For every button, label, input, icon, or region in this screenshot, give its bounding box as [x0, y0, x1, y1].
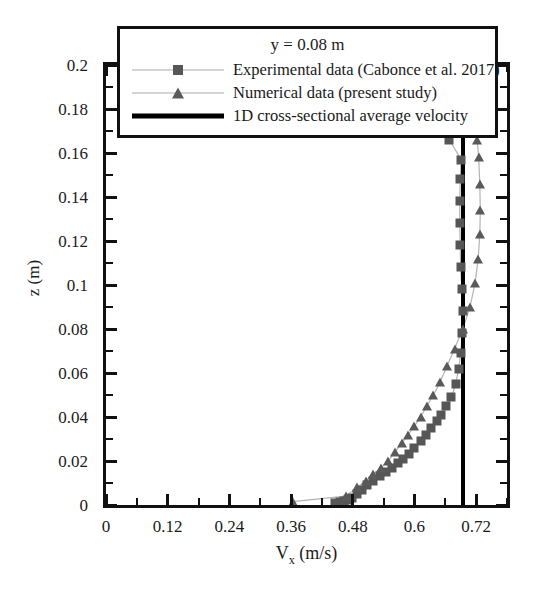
x-axis-tick-label: 0.48 [323, 518, 383, 535]
experimental-data-point [437, 410, 446, 419]
y-axis-major-tick [106, 460, 117, 463]
y-axis-major-tick [496, 372, 507, 375]
legend-label-average-velocity: 1D cross-sectional average velocity [233, 106, 468, 126]
x-axis-title: Vx (m/s) [103, 543, 510, 568]
x-axis-major-tick [475, 494, 478, 505]
y-axis-major-tick [106, 65, 117, 67]
experimental-data-point [456, 241, 465, 250]
y-axis-tick-label: 0.2 [67, 57, 88, 74]
y-axis-minor-tick [500, 350, 507, 352]
x-axis-major-tick [351, 494, 354, 505]
y-axis-minor-tick [500, 218, 507, 220]
x-axis-minor-tick [136, 498, 138, 505]
numerical-data-point [390, 448, 400, 457]
y-axis-tick-label: 0.1 [67, 277, 88, 294]
x-axis-tick-labels: 00.120.240.360.480.60.72 [103, 514, 510, 540]
experimental-data-point [455, 219, 464, 228]
numerical-data-point [470, 278, 480, 287]
y-axis-major-tick [106, 152, 117, 155]
numerical-data-point [475, 230, 485, 239]
numerical-data-point [416, 413, 426, 422]
numerical-data-point [458, 325, 468, 334]
y-axis-tick-label: 0.04 [58, 409, 88, 426]
experimental-data-point [451, 380, 460, 389]
numerical-data-point [409, 421, 419, 430]
y-axis-major-tick [496, 284, 507, 287]
experimental-data-point [454, 364, 463, 373]
numerical-data-point [442, 362, 452, 371]
legend-key-experimental [130, 60, 226, 80]
numerical-data-point [341, 492, 351, 501]
figure-container: z (m) 00.020.040.060.080.10.120.140.160.… [0, 0, 539, 592]
y-axis-minor-tick [106, 306, 113, 308]
legend-entry-numerical: Numerical data (present study) [130, 81, 485, 104]
numerical-data-point [422, 402, 432, 411]
x-axis-tick-label: 0.6 [384, 518, 444, 535]
x-axis-tick-label: 0.72 [446, 518, 506, 535]
x-axis-minor-tick [506, 65, 507, 72]
legend-title: y = 0.08 m [130, 35, 485, 55]
x-axis-minor-tick [259, 498, 261, 505]
legend-key-numerical [130, 83, 226, 103]
y-axis-major-tick [106, 240, 117, 243]
y-axis-minor-tick [500, 174, 507, 176]
y-axis-major-tick [106, 504, 117, 506]
y-axis-tick-label: 0.18 [58, 101, 88, 118]
y-axis-minor-tick [106, 482, 113, 484]
numerical-data-point [403, 430, 413, 439]
y-axis-major-tick [496, 152, 507, 155]
y-axis-major-tick [496, 460, 507, 463]
y-axis-minor-tick [106, 438, 113, 440]
numerical-data-point [435, 377, 445, 386]
x-axis-title-main: V [276, 543, 289, 563]
numerical-data-point [383, 457, 393, 466]
y-axis-tick-label: 0.16 [58, 145, 88, 162]
numerical-data-point [474, 153, 484, 162]
y-axis-minor-tick [500, 306, 507, 308]
legend-line-average-velocity [132, 113, 224, 118]
experimental-data-point [457, 155, 466, 164]
y-axis-minor-tick [500, 262, 507, 264]
numerical-data-point [473, 254, 483, 263]
x-axis-major-tick [166, 494, 169, 505]
numerical-data-point [397, 439, 407, 448]
y-axis-major-tick [106, 328, 117, 331]
y-axis-major-tick [106, 416, 117, 419]
y-axis-minor-tick [106, 350, 113, 352]
y-axis-minor-tick [106, 174, 113, 176]
y-axis-tick-label: 0.02 [58, 453, 88, 470]
y-axis-minor-tick [106, 130, 113, 132]
x-axis-major-tick [290, 494, 293, 505]
x-axis-minor-tick [198, 498, 200, 505]
legend-entry-average-velocity: 1D cross-sectional average velocity [130, 104, 485, 127]
y-axis-minor-tick [106, 262, 113, 264]
y-axis-major-tick [496, 240, 507, 243]
y-axis-tick-label: 0 [80, 497, 89, 514]
x-axis-minor-tick [383, 498, 385, 505]
triangle-marker-icon [172, 87, 184, 98]
y-axis-major-tick [496, 328, 507, 331]
y-axis-tick-label: 0.12 [58, 233, 88, 250]
experimental-data-point [455, 197, 464, 206]
y-axis-major-tick [496, 416, 507, 419]
y-axis-major-tick [106, 108, 117, 111]
x-axis-tick-label: 0.36 [261, 518, 321, 535]
numerical-data-point [475, 206, 485, 215]
x-axis-minor-tick [444, 498, 446, 505]
x-axis-tick-label: 0 [76, 518, 136, 535]
legend-entry-experimental: Experimental data (Cabonce et al. 2017) [130, 58, 485, 81]
y-axis-tick-label: 0.08 [58, 321, 88, 338]
y-axis-minor-tick [500, 394, 507, 396]
x-axis-tick-label: 0.24 [199, 518, 259, 535]
x-axis-title-units: (m/s) [295, 543, 338, 563]
y-axis-minor-tick [500, 482, 507, 484]
numerical-data-point [428, 391, 438, 400]
y-axis-minor-tick [500, 86, 507, 88]
x-axis-minor-tick [506, 498, 507, 505]
legend-label-numerical: Numerical data (present study) [233, 83, 437, 103]
legend-key-average-velocity [130, 106, 226, 126]
legend-label-experimental: Experimental data (Cabonce et al. 2017) [233, 60, 500, 80]
y-axis-minor-tick [106, 218, 113, 220]
y-axis-major-tick [496, 196, 507, 199]
legend-box: y = 0.08 m Experimental data (Cabonce et… [117, 26, 498, 138]
